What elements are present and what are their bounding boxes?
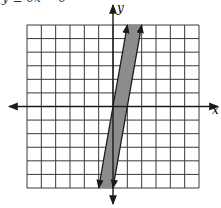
y-axis-label: y — [116, 1, 124, 15]
x-axis-label: x — [212, 103, 219, 117]
coordinate-graph: x y — [0, 0, 221, 208]
